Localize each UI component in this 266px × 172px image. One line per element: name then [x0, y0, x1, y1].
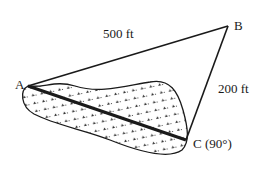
edge-ab-label: 500 ft [103, 26, 134, 41]
vertex-b-label: B [234, 18, 243, 33]
edge-bc-label: 200 ft [218, 81, 249, 96]
vertex-a-label: A [15, 77, 25, 92]
vertex-c-label: C (90°) [193, 136, 232, 151]
lake-triangle-diagram: A B C (90°) 500 ft 200 ft [0, 0, 266, 172]
